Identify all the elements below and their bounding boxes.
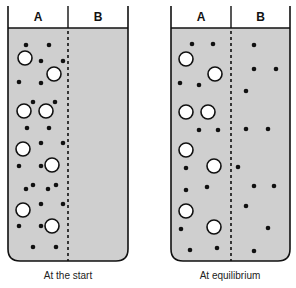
small-solvent-particle [54, 183, 59, 188]
small-solvent-particle [24, 187, 29, 192]
small-solvent-particle [252, 184, 257, 189]
small-solvent-particle [274, 67, 279, 72]
small-solvent-particle [266, 127, 271, 132]
small-solvent-particle [211, 42, 216, 47]
large-solute-particle [47, 67, 61, 81]
small-solvent-particle [39, 224, 44, 229]
compartment-label-b: B [94, 10, 103, 24]
small-solvent-particle [252, 249, 257, 254]
small-solvent-particle [24, 43, 29, 48]
small-solvent-particle [178, 81, 183, 86]
small-solvent-particle [244, 204, 249, 209]
small-solvent-particle [39, 202, 44, 207]
small-solvent-particle [39, 59, 44, 64]
compartment-label-b: B [256, 10, 265, 24]
small-solvent-particle [215, 246, 220, 251]
small-solvent-particle [17, 224, 22, 229]
small-solvent-particle [179, 227, 184, 232]
panel-start: AB [8, 6, 128, 261]
large-solute-particle [18, 51, 32, 65]
small-solvent-particle [31, 100, 36, 105]
small-solvent-particle [197, 83, 202, 88]
small-solvent-particle [184, 188, 189, 193]
small-solvent-particle [31, 183, 36, 188]
large-solute-particle [208, 67, 222, 81]
small-solvent-particle [272, 184, 277, 189]
large-solute-particle [45, 219, 59, 233]
small-solvent-particle [205, 185, 210, 190]
large-solute-particle [16, 142, 30, 156]
compartment-label-a: A [34, 10, 43, 24]
small-solvent-particle [31, 245, 36, 250]
large-solute-particle [45, 158, 59, 172]
small-solvent-particle [61, 202, 66, 207]
small-solvent-particle [47, 43, 52, 48]
small-solvent-particle [17, 164, 22, 169]
small-solvent-particle [54, 245, 59, 250]
small-solvent-particle [184, 166, 189, 171]
large-solute-particle [207, 159, 221, 173]
small-solvent-particle [46, 187, 51, 192]
caption-equilibrium: At equilibrium [160, 270, 296, 281]
small-solvent-particle [188, 248, 193, 253]
large-solute-particle [179, 204, 193, 218]
large-solute-particle [179, 105, 193, 119]
compartment-label-a: A [197, 10, 206, 24]
small-solvent-particle [47, 126, 52, 131]
small-solvent-particle [252, 67, 257, 72]
small-solvent-particle [216, 128, 221, 133]
small-solvent-particle [53, 100, 58, 105]
small-solvent-particle [39, 141, 44, 146]
panel-equilibrium: AB [171, 6, 290, 261]
osmosis-diagram: ABAB [0, 0, 296, 288]
large-solute-particle [16, 203, 30, 217]
large-solute-particle [179, 52, 193, 66]
small-solvent-particle [17, 80, 22, 85]
small-solvent-particle [190, 42, 195, 47]
small-solvent-particle [244, 89, 249, 94]
small-solvent-particle [197, 128, 202, 133]
large-solute-particle [39, 104, 53, 118]
small-solvent-particle [252, 43, 257, 48]
small-solvent-particle [236, 165, 241, 170]
small-solvent-particle [39, 81, 44, 86]
large-solute-particle [207, 220, 221, 234]
small-solvent-particle [61, 141, 66, 146]
large-solute-particle [201, 105, 215, 119]
small-solvent-particle [244, 127, 249, 132]
caption-start: At the start [0, 270, 138, 281]
small-solvent-particle [25, 126, 30, 131]
small-solvent-particle [39, 164, 44, 169]
large-solute-particle [17, 104, 31, 118]
small-solvent-particle [61, 59, 66, 64]
small-solvent-particle [266, 226, 271, 231]
large-solute-particle [179, 143, 193, 157]
